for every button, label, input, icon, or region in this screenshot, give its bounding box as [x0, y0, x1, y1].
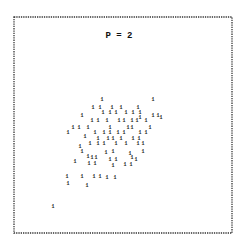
- scatter-plot: P = 2 1111111111111111111111111111111111…: [0, 0, 247, 243]
- data-point: 1: [126, 125, 129, 131]
- data-point: 1: [116, 130, 119, 136]
- data-point: 1: [106, 136, 109, 142]
- data-point: 1: [130, 162, 133, 168]
- data-point: 1: [138, 130, 141, 136]
- data-point: 1: [90, 118, 93, 124]
- data-point: 1: [130, 118, 133, 124]
- data-point: 1: [101, 97, 104, 103]
- data-point: 1: [108, 110, 111, 116]
- data-point: 1: [111, 149, 114, 155]
- data-point: 1: [102, 141, 105, 147]
- data-point: 1: [111, 163, 114, 169]
- data-point: 1: [77, 125, 80, 131]
- data-point: 1: [67, 181, 70, 187]
- data-point: 1: [106, 175, 109, 181]
- data-point: 1: [135, 157, 138, 163]
- data-point: 1: [119, 136, 122, 142]
- data-point: 1: [136, 141, 139, 147]
- data-point: 1: [86, 125, 89, 131]
- data-point: 1: [114, 110, 117, 116]
- data-point: 1: [102, 130, 105, 136]
- data-point: 1: [131, 136, 134, 142]
- data-point: 1: [65, 174, 68, 180]
- data-point: 1: [142, 141, 145, 147]
- data-point: 1: [108, 130, 111, 136]
- data-point: 1: [91, 105, 94, 111]
- data-point: 1: [94, 130, 97, 136]
- data-point: 1: [125, 110, 128, 116]
- data-point: 1: [145, 118, 148, 124]
- plot-frame: [14, 17, 232, 233]
- data-point: 1: [101, 110, 104, 116]
- data-point: 1: [148, 125, 151, 131]
- data-point: 1: [80, 149, 83, 155]
- data-point: 1: [114, 157, 117, 163]
- data-point: 1: [80, 113, 83, 119]
- data-point: 1: [125, 141, 128, 147]
- data-point: 1: [108, 157, 111, 163]
- data-point: 1: [73, 159, 76, 165]
- data-point: 1: [67, 130, 70, 136]
- data-point: 1: [131, 110, 134, 116]
- data-point: 1: [72, 125, 75, 131]
- data-point: 1: [114, 141, 117, 147]
- data-point: 1: [152, 97, 155, 103]
- data-point: 1: [152, 113, 155, 119]
- data-point: 1: [94, 161, 97, 167]
- data-point: 1: [104, 150, 107, 156]
- data-point: 1: [145, 130, 148, 136]
- data-point: 1: [123, 162, 126, 168]
- data-point: 1: [142, 149, 145, 155]
- data-point: 1: [130, 155, 133, 161]
- data-point: 1: [51, 204, 54, 210]
- data-point: 1: [159, 115, 162, 121]
- data-point: 1: [130, 125, 133, 131]
- data-point: 1: [92, 174, 95, 180]
- data-point: 1: [96, 118, 99, 124]
- data-point: 1: [123, 118, 126, 124]
- data-point: 1: [96, 141, 99, 147]
- data-point: 1: [138, 115, 141, 121]
- data-point: 1: [123, 130, 126, 136]
- chart-title: P = 2: [105, 31, 132, 41]
- data-point: 1: [85, 183, 88, 189]
- data-point: 1: [113, 175, 116, 181]
- data-point: 1: [89, 141, 92, 147]
- data-point: 1: [86, 154, 89, 160]
- data-point: 1: [135, 118, 138, 124]
- data-point: 1: [87, 161, 90, 167]
- data-point: 1: [118, 118, 121, 124]
- data-point: 1: [80, 174, 83, 180]
- data-points: 1111111111111111111111111111111111111111…: [51, 97, 162, 210]
- data-point: 1: [119, 105, 122, 111]
- data-point: 1: [106, 118, 109, 124]
- data-point: 1: [84, 134, 87, 140]
- data-point: 1: [98, 174, 101, 180]
